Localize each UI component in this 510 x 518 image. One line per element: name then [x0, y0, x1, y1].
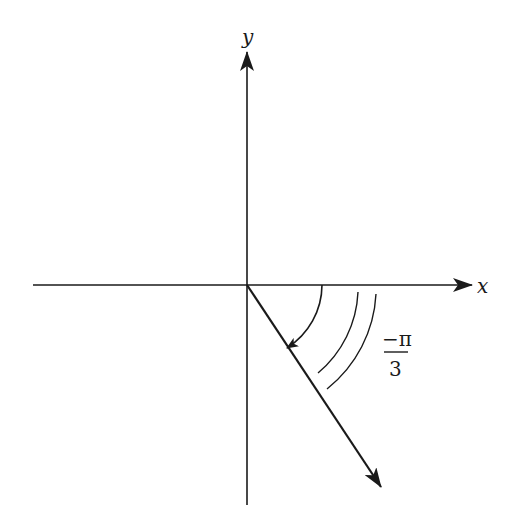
- angle-diagram: y x −π 3: [0, 0, 510, 518]
- rotation-arc-outer: [327, 294, 376, 389]
- angle-numerator: −π: [382, 327, 412, 351]
- x-axis-label: x: [477, 274, 488, 298]
- angle-arc-arrow: [287, 285, 322, 348]
- y-axis-label: y: [241, 25, 254, 49]
- rotation-arc-inner: [318, 292, 358, 373]
- terminal-ray: [247, 285, 381, 487]
- angle-denominator: 3: [389, 357, 402, 381]
